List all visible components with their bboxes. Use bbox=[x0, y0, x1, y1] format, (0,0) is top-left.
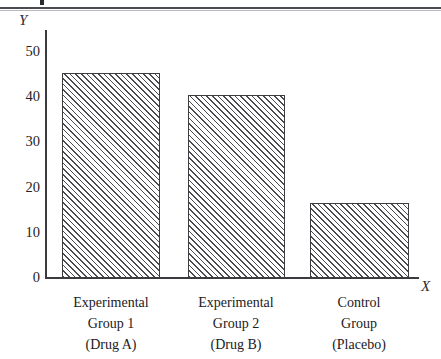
y-axis-label: Y bbox=[19, 12, 28, 29]
category-label-control-group: Control Group (Placebo) bbox=[300, 292, 418, 355]
bar-experimental-group-2 bbox=[188, 95, 285, 278]
category-line-3: (Drug A) bbox=[52, 334, 170, 355]
category-label-experimental-group-1: Experimental Group 1 (Drug A) bbox=[52, 292, 170, 355]
category-line-1: Control bbox=[300, 292, 418, 313]
y-tick-20: 20 bbox=[0, 180, 40, 194]
y-tick-30: 30 bbox=[0, 134, 40, 148]
bar-chart-plot: Y X 50 40 30 20 10 0 Experimental Group … bbox=[0, 0, 441, 359]
y-axis-line bbox=[45, 30, 47, 278]
bar-experimental-group-1 bbox=[62, 73, 160, 278]
y-tick-10: 10 bbox=[0, 225, 40, 239]
bar-control-group bbox=[310, 203, 409, 278]
y-tick-0: 0 bbox=[0, 270, 40, 284]
category-line-2: Group 1 bbox=[52, 313, 170, 334]
category-line-1: Experimental bbox=[177, 292, 295, 313]
category-line-3: (Drug B) bbox=[177, 334, 295, 355]
category-label-experimental-group-2: Experimental Group 2 (Drug B) bbox=[177, 292, 295, 355]
category-line-2: Group bbox=[300, 313, 418, 334]
category-line-3: (Placebo) bbox=[300, 334, 418, 355]
figure-canvas: Y X 50 40 30 20 10 0 Experimental Group … bbox=[0, 0, 441, 359]
x-axis-label: X bbox=[421, 278, 430, 295]
y-tick-40: 40 bbox=[0, 89, 40, 103]
category-line-1: Experimental bbox=[52, 292, 170, 313]
category-line-2: Group 2 bbox=[177, 313, 295, 334]
y-tick-50: 50 bbox=[0, 44, 40, 58]
